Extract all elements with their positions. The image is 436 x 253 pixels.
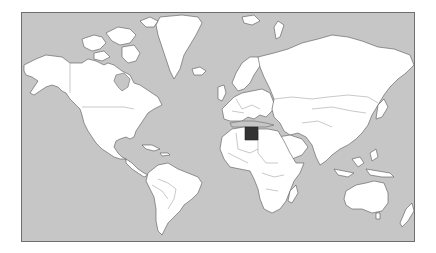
egypt-highlight [245,127,258,140]
egypt [245,127,258,140]
world-map-svg [22,13,414,241]
south-america [146,163,202,235]
southeast-asia-islands [334,149,394,177]
mediterranean [230,121,274,127]
australia-oceania [344,181,414,227]
north-america [24,17,162,159]
world-map [21,12,415,242]
